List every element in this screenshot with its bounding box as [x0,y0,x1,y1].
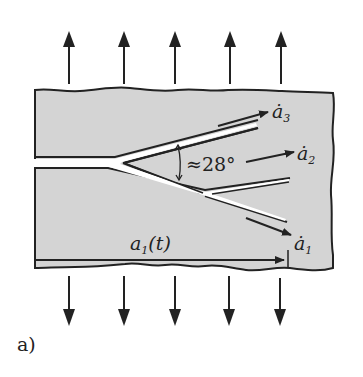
load-arrow-down-icon [63,276,75,326]
load-arrow-up-icon [224,31,236,84]
load-arrow-up-icon [275,31,287,84]
load-arrow-up-icon [63,31,75,84]
crack-branching-diagram: ≈28° ȧ3 ȧ2 ȧ1 a1(t) [0,0,363,377]
crack-length-label: a1(t) [130,232,171,257]
load-arrow-up-icon [169,31,181,84]
top-load-arrows [63,31,287,84]
bottom-load-arrows [63,276,286,326]
angle-label: ≈28° [186,153,236,175]
load-arrow-down-icon [274,278,286,326]
load-arrow-down-icon [223,276,235,326]
load-arrow-down-icon [169,276,181,326]
load-arrow-up-icon [118,31,130,84]
load-arrow-down-icon [118,276,130,326]
panel-label: a) [17,333,36,355]
